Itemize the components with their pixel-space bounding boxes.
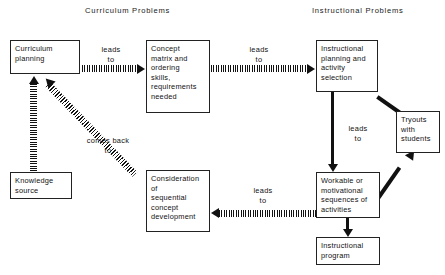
arrowhead-right-icon: [307, 64, 315, 74]
edge-label-line: to: [340, 134, 376, 144]
edge-label-line: to: [82, 55, 140, 65]
node-line: requirements: [151, 82, 209, 92]
node-line: development: [151, 212, 209, 222]
node-line: Curriculum: [15, 44, 79, 54]
node-line: concept: [151, 203, 209, 213]
node-line: ordering: [151, 63, 209, 73]
node-line: of: [151, 184, 209, 194]
section-heading-curriculum-problems: Curriculum Problems: [85, 6, 170, 15]
edge-concept-to-instructional: [211, 65, 308, 72]
edge-instructional-to-workable: [331, 92, 334, 166]
node-line: skills,: [151, 73, 209, 83]
arrowhead-down-icon: [343, 229, 353, 237]
edge-label-instructional-to-workable: leads to: [340, 124, 376, 143]
node-line: students: [401, 134, 439, 144]
node-consideration-sequential[interactable]: Consideration of sequential concept deve…: [146, 170, 210, 232]
node-concept-matrix[interactable]: Concept matrix and ordering skills, requ…: [146, 40, 210, 113]
node-line: program: [321, 251, 379, 261]
arrowhead-right-icon: [137, 64, 145, 74]
node-line: sequences of: [321, 195, 379, 205]
diagram-canvas: Curriculum Problems Instructional Proble…: [0, 0, 445, 275]
node-line: needed: [151, 92, 209, 102]
node-workable-sequences[interactable]: Workable or motivational sequences of ac…: [316, 172, 380, 218]
arrowhead-up-icon: [29, 76, 39, 84]
node-line: planning: [15, 54, 79, 64]
node-line: with: [401, 125, 439, 135]
node-line: matrix and: [151, 54, 209, 64]
node-line: selection: [321, 73, 377, 83]
node-line: planning and: [321, 54, 377, 64]
node-line: Knowledge: [15, 176, 71, 186]
node-line: Consideration: [151, 174, 209, 184]
edge-planning-to-concept: [82, 65, 138, 72]
node-knowledge-source[interactable]: Knowledge source: [10, 172, 72, 199]
node-line: sequential: [151, 193, 209, 203]
node-line: motivational: [321, 186, 379, 196]
node-tryouts-with-students[interactable]: Tryouts with students: [396, 111, 440, 153]
edge-label-line: leads: [82, 45, 140, 55]
edge-workable-to-consideration: [219, 210, 316, 217]
node-instructional-planning[interactable]: Instructional planning and activity sele…: [316, 40, 378, 92]
edge-label-line: to: [73, 146, 143, 156]
node-line: Tryouts: [401, 115, 439, 125]
edge-label-line: leads: [228, 45, 290, 55]
node-line: Instructional: [321, 241, 379, 251]
node-curriculum-planning[interactable]: Curriculum planning: [10, 40, 80, 74]
edge-consideration-to-planning: [45, 82, 137, 177]
edge-label-line: comes back: [73, 136, 143, 146]
section-heading-instructional-problems: Instructional Problems: [312, 6, 404, 15]
arrowhead-left-icon: [211, 208, 219, 218]
edge-label-workable-to-consideration: leads to: [232, 186, 294, 205]
node-line: Instructional: [321, 44, 377, 54]
node-line: Concept: [151, 44, 209, 54]
node-instructional-program[interactable]: Instructional program: [316, 237, 380, 265]
arrowhead-down-icon: [328, 164, 338, 172]
edge-label-line: to: [232, 196, 294, 206]
edge-label-consideration-to-planning: comes back to: [73, 136, 143, 155]
edge-label-line: leads: [340, 124, 376, 134]
node-line: activity: [321, 63, 377, 73]
edge-label-line: to: [228, 55, 290, 65]
node-line: activities: [321, 205, 379, 215]
edge-label-concept-to-instructional: leads to: [228, 45, 290, 64]
node-line: Workable or: [321, 176, 379, 186]
edge-label-planning-to-concept: leads to: [82, 45, 140, 64]
edge-label-line: leads: [232, 186, 294, 196]
node-line: source: [15, 186, 71, 196]
edge-knowledge-to-planning: [30, 84, 37, 172]
